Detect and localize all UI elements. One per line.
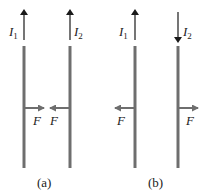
current-label-i1: I1 — [8, 24, 18, 41]
current-label-i1: I1 — [118, 24, 128, 41]
force-label: F — [49, 113, 59, 128]
wire-a2: I2 F — [49, 12, 83, 168]
current-label-i2: I2 — [73, 24, 83, 41]
panel-caption-b: (b) — [148, 175, 163, 190]
wire-b2: I2 F — [178, 12, 198, 168]
force-label: F — [32, 113, 42, 128]
panel-b: I1 F I2 F (b) — [115, 12, 198, 190]
force-label: F — [185, 113, 195, 128]
wire-b1: I1 F — [115, 12, 135, 168]
current-label-i2: I2 — [182, 24, 192, 41]
parallel-wires-diagram: I1 F I2 F (a) I1 F I2 F — [0, 0, 206, 195]
force-label: F — [116, 113, 126, 128]
panel-caption-a: (a) — [37, 175, 51, 190]
wire-a1: I1 F — [8, 12, 44, 168]
panel-a: I1 F I2 F (a) — [8, 12, 83, 190]
